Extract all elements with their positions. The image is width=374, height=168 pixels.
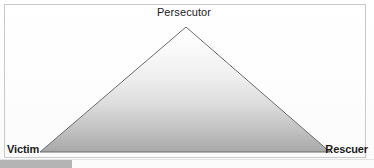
triangle-shape bbox=[40, 27, 330, 152]
scan-artifact-band bbox=[0, 160, 72, 168]
drama-triangle-figure: Persecutor Victim Rescuer bbox=[0, 0, 374, 168]
vertex-label-rescuer: Rescuer bbox=[325, 144, 368, 155]
vertex-label-persecutor: Persecutor bbox=[0, 7, 371, 18]
triangle-canvas bbox=[0, 0, 374, 168]
vertex-label-victim: Victim bbox=[7, 144, 39, 155]
